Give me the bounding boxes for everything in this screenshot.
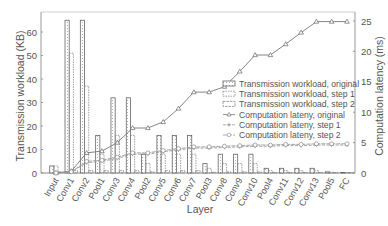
chart: 0102030405060 0510152025 InputConv1Conv2…: [0, 0, 388, 226]
bar-1-conv5: [161, 154, 165, 173]
legend-entry-1: Transmission workload, original: [239, 79, 359, 89]
svg-text:50: 50: [26, 50, 37, 61]
x-tick-fc: FC: [337, 176, 352, 192]
bar-1-pool3: [207, 168, 211, 173]
x-axis-label: Layer: [187, 203, 214, 215]
bar-1-pool1: [100, 154, 104, 173]
y2-axis-label: Computation latency (ms): [373, 36, 385, 156]
bar-2-pool3: [211, 172, 215, 173]
bar-0-pool1: [96, 135, 100, 173]
bar-0-conv1: [65, 20, 69, 173]
svg-text:15: 15: [361, 76, 372, 87]
bar-1-conv8: [222, 164, 226, 173]
legend-entry-2: Transmission workload, step 1: [239, 89, 355, 99]
legend-entry-6: Computation lateny, step 2: [239, 130, 341, 140]
bar-1-conv6: [176, 154, 180, 173]
bar-0-pool3: [203, 164, 207, 173]
bar-0-conv13: [310, 168, 314, 173]
x-tick-pool5: Pool5: [316, 176, 336, 201]
legend-entry-5: Computation lateny, step 1: [239, 120, 341, 130]
bar-0-conv6: [172, 135, 176, 173]
svg-text:25: 25: [361, 16, 372, 27]
svg-text:0: 0: [32, 168, 37, 179]
bar-0-conv10: [249, 154, 253, 173]
legend-entry-4: Computation lateny, original: [239, 110, 345, 120]
bar-1-conv1: [69, 53, 73, 173]
bar-0-conv12: [295, 168, 299, 173]
bar-0-conv11: [279, 168, 283, 173]
svg-text:5: 5: [361, 137, 366, 148]
bar-1-conv10: [253, 164, 257, 173]
svg-text:40: 40: [26, 74, 37, 85]
svg-text:10: 10: [361, 107, 372, 118]
svg-text:30: 30: [26, 97, 37, 108]
svg-text:20: 20: [26, 121, 37, 132]
svg-text:0: 0: [361, 168, 366, 179]
bar-0-conv4: [126, 98, 130, 173]
right-axis: 0510152025: [353, 16, 372, 179]
bar-0-conv3: [111, 98, 115, 173]
bar-0-conv8: [218, 154, 222, 173]
svg-text:10: 10: [26, 144, 37, 155]
bar-0-fc: [341, 173, 345, 174]
bar-0-pool2: [142, 154, 146, 173]
bar-1-conv9: [238, 164, 242, 173]
bar-0-conv7: [188, 135, 192, 173]
bar-1-pool2: [146, 164, 150, 173]
bar-0-pool5: [325, 172, 329, 173]
bar-0-conv9: [233, 154, 237, 173]
bar-0-conv5: [157, 135, 161, 173]
bar-1-conv7: [192, 154, 196, 173]
svg-text:60: 60: [26, 27, 37, 38]
y-axis-label: Transmission workload (KB): [14, 31, 26, 162]
bar-0-pool4: [264, 168, 268, 173]
bar-0-input: [50, 166, 54, 173]
svg-text:20: 20: [361, 46, 372, 57]
bar-0-conv2: [80, 20, 84, 173]
legend: Transmission workload, originalTransmiss…: [223, 79, 359, 140]
legend-entry-3: Transmission workload, step 2: [239, 99, 355, 109]
